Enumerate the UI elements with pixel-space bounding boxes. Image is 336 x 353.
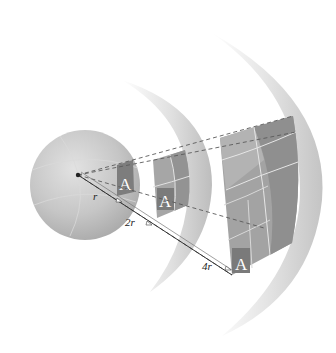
inverse-square-diagram: A A A r 2r 4r (0, 0, 336, 353)
inner-sphere: A (30, 130, 140, 240)
patch-a-medium-letter: A (159, 192, 172, 211)
distance-label-4r: 4r (202, 260, 213, 272)
arrow-4r-icon (225, 266, 231, 270)
patch-a-small-letter: A (119, 175, 132, 194)
middle-patch: A (153, 150, 190, 218)
distance-label-r: r (93, 190, 98, 202)
point-source (76, 173, 80, 177)
distance-label-2r: 2r (125, 216, 136, 228)
outer-patch: A (220, 116, 298, 275)
patch-a-large-letter: A (235, 255, 248, 274)
